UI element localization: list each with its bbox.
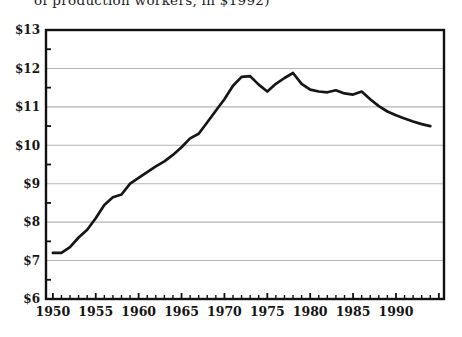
y-axis-label: $7 <box>23 254 40 268</box>
x-axis-label: 1975 <box>250 304 285 319</box>
y-axis-label: $13 <box>15 23 40 37</box>
y-axis-label: $9 <box>23 177 40 191</box>
x-axis-label: 1980 <box>293 304 328 319</box>
chart-page: of production workers, in $1992) $13$12$… <box>0 0 462 337</box>
x-axis-label: 1965 <box>164 304 199 319</box>
y-axis-label: $8 <box>23 215 40 229</box>
x-axis-label: 1960 <box>121 304 156 319</box>
x-axis-label: 1955 <box>78 304 113 319</box>
plot-frame <box>46 30 444 299</box>
x-axis-label: 1950 <box>35 304 70 319</box>
x-axis-label: 1970 <box>207 304 242 319</box>
y-axis-label: $11 <box>15 100 40 114</box>
y-axis-label: $10 <box>15 139 40 153</box>
earnings-data-line <box>53 73 430 253</box>
x-axis-label: 1990 <box>379 304 414 319</box>
earnings-line-chart: $13$12$11$10$9$8$7$619501955196019651970… <box>0 0 462 337</box>
x-axis-label: 1985 <box>336 304 371 319</box>
y-axis-label: $12 <box>15 62 40 76</box>
